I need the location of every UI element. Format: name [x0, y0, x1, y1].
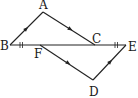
- label-C: C: [92, 32, 101, 46]
- label-E: E: [128, 40, 137, 54]
- geometry-diagram: A B C E F D: [0, 0, 138, 98]
- label-A: A: [38, 0, 48, 12]
- label-D: D: [89, 85, 99, 98]
- label-F: F: [34, 47, 42, 61]
- label-B: B: [0, 39, 9, 53]
